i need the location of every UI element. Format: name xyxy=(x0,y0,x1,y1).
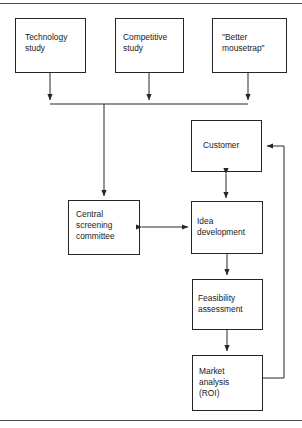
node-box-central-screening-committee xyxy=(69,201,140,255)
node-box-competitive-study xyxy=(116,19,184,73)
node-box-technology-study xyxy=(16,19,86,73)
flowchart-figure: Technology studyCompetitive study"Better… xyxy=(0,0,302,428)
node-box-idea-development xyxy=(192,202,263,254)
node-box-customer xyxy=(192,121,262,172)
node-boxes xyxy=(16,19,287,411)
flowchart-canvas xyxy=(0,0,302,428)
node-box-market-analysis-roi xyxy=(193,356,263,411)
connector-market-analysis-to-customer-feedback xyxy=(262,146,284,378)
node-box-better-mousetrap xyxy=(213,19,287,73)
node-box-feasibility-assessment xyxy=(193,280,263,330)
